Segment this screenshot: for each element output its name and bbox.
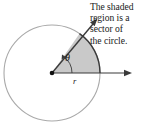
circle-center-vertex [50, 71, 55, 76]
caption-line-4: the circle. [90, 35, 154, 46]
caption-line-3: sector of [90, 23, 154, 34]
caption-line-1: The shaded [90, 1, 154, 12]
initial-side-arrowhead [124, 70, 132, 76]
theta-label: θ [65, 52, 70, 63]
figure-canvas: θ r The shaded region is a sector of the… [0, 0, 154, 128]
caption-block: The shaded region is a sector of the cir… [90, 1, 154, 46]
radius-label: r [73, 76, 76, 86]
caption-line-2: region is a [90, 12, 154, 23]
